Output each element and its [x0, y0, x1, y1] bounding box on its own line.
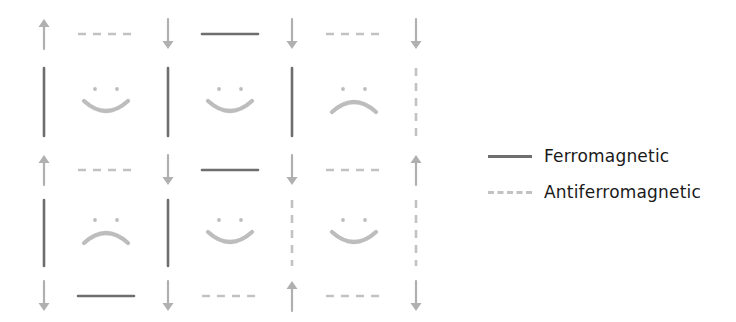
- horizontal-bond-layer: [78, 34, 382, 296]
- plaquette-face-r1-c1: [208, 218, 252, 242]
- legend-item-antiferromagnetic: Antiferromagnetic: [488, 174, 736, 210]
- spin-r2-c2: [287, 281, 298, 311]
- spin-r0-c1: [163, 19, 174, 49]
- figure-canvas: Ferromagnetic Antiferromagnetic: [0, 0, 736, 322]
- plaquette-face-layer: [84, 87, 376, 243]
- spin-r1-c2: [287, 155, 298, 185]
- vertical-bond-layer: [44, 68, 416, 266]
- legend-label-ferromagnetic: Ferromagnetic: [544, 146, 669, 166]
- spin-r0-c2: [287, 19, 298, 49]
- legend-item-ferromagnetic: Ferromagnetic: [488, 138, 736, 174]
- plaquette-face-r1-c0: [84, 218, 128, 243]
- plaquette-face-r0-c2: [332, 87, 376, 112]
- spin-r1-c1: [163, 155, 174, 185]
- plaquette-face-r1-c2: [332, 218, 376, 242]
- solid-line-icon: [488, 155, 532, 158]
- spin-r1-c0: [39, 155, 50, 185]
- spin-layer: [39, 19, 422, 311]
- dashed-line-icon: [488, 191, 532, 194]
- spin-r0-c3: [411, 19, 422, 49]
- plaquette-face-r0-c0: [84, 87, 128, 111]
- spin-r2-c3: [411, 281, 422, 311]
- plaquette-face-r0-c1: [208, 87, 252, 111]
- spin-r2-c1: [163, 281, 174, 311]
- legend: Ferromagnetic Antiferromagnetic: [488, 138, 736, 210]
- spin-r1-c3: [411, 155, 422, 185]
- legend-label-antiferromagnetic: Antiferromagnetic: [544, 182, 701, 202]
- spin-r2-c0: [39, 281, 50, 311]
- spin-r0-c0: [39, 19, 50, 49]
